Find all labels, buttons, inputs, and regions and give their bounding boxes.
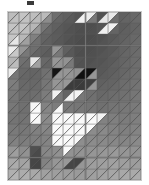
mosaic-cell-r1-c8	[97, 23, 108, 34]
mosaic-cell-r6-c9	[108, 79, 119, 90]
mosaic-cell-r3-c5	[63, 46, 74, 57]
mosaic-cell-r1-c4	[52, 23, 63, 34]
mosaic-cell-r14-c8	[97, 169, 108, 180]
mosaic-cell-r14-c1	[19, 169, 30, 180]
mosaic-cell-r3-c10	[119, 46, 130, 57]
mosaic-cell-r9-c2	[30, 113, 41, 124]
mosaic-cell-r4-c7	[86, 57, 97, 68]
mosaic-cell-r2-c11	[130, 34, 141, 45]
mosaic-cell-r0-c3	[41, 12, 52, 23]
mosaic-cell-r5-c1	[19, 68, 30, 79]
mosaic-cell-r2-c0	[8, 34, 19, 45]
mosaic-cell-r4-c4	[52, 57, 63, 68]
mosaic-cell-r9-c6	[74, 113, 85, 124]
mosaic-cell-r1-c0	[8, 23, 19, 34]
mosaic-cell-r1-c11	[130, 23, 141, 34]
mosaic-cell-r12-c7	[86, 146, 97, 157]
mosaic-cell-r6-c3	[41, 79, 52, 90]
mosaic-cell-r11-c8	[97, 135, 108, 146]
mosaic-cell-r9-c1	[19, 113, 30, 124]
mosaic-cell-r1-c7	[86, 23, 97, 34]
mosaic-cell-r6-c4	[52, 79, 63, 90]
mosaic-cell-r9-c9	[108, 113, 119, 124]
mosaic-cell-r13-c9	[108, 158, 119, 169]
triangulated-mosaic-grid	[7, 11, 142, 181]
mosaic-cell-r11-c10	[119, 135, 130, 146]
mosaic-cell-r5-c6	[74, 68, 85, 79]
mosaic-cell-r7-c10	[119, 90, 130, 101]
mosaic-cell-r13-c0	[8, 158, 19, 169]
mosaic-cell-r2-c10	[119, 34, 130, 45]
mosaic-cell-r0-c0	[8, 12, 19, 23]
mosaic-cell-r3-c1	[19, 46, 30, 57]
mosaic-cell-r11-c1	[19, 135, 30, 146]
mosaic-cell-r12-c10	[119, 146, 130, 157]
mosaic-cell-r3-c0	[8, 46, 19, 57]
mosaic-cell-r8-c11	[130, 102, 141, 113]
mosaic-cell-r11-c5	[63, 135, 74, 146]
mosaic-cell-r6-c8	[97, 79, 108, 90]
mosaic-cell-r1-c6	[74, 23, 85, 34]
mosaic-cell-r14-c11	[130, 169, 141, 180]
mosaic-cell-r6-c10	[119, 79, 130, 90]
mosaic-cell-r8-c6	[74, 102, 85, 113]
mosaic-cell-r8-c8	[97, 102, 108, 113]
mosaic-cell-r7-c2	[30, 90, 41, 101]
mosaic-cell-r2-c1	[19, 34, 30, 45]
mosaic-cell-r14-c2	[30, 169, 41, 180]
mosaic-cell-r10-c10	[119, 124, 130, 135]
mosaic-cell-r5-c2	[30, 68, 41, 79]
mosaic-cell-r13-c8	[97, 158, 108, 169]
mosaic-cell-r11-c11	[130, 135, 141, 146]
mosaic-cell-r7-c6	[74, 90, 85, 101]
mosaic-cell-r13-c3	[41, 158, 52, 169]
mosaic-cell-r5-c7	[86, 68, 97, 79]
mosaic-cell-r0-c4	[52, 12, 63, 23]
mosaic-cell-r9-c0	[8, 113, 19, 124]
mosaic-cell-r10-c11	[130, 124, 141, 135]
mosaic-cell-r10-c5	[63, 124, 74, 135]
mosaic-cell-r12-c0	[8, 146, 19, 157]
mosaic-cell-r7-c1	[19, 90, 30, 101]
mosaic-cell-r4-c2	[30, 57, 41, 68]
mosaic-cell-r2-c6	[74, 34, 85, 45]
mosaic-cell-r13-c6	[74, 158, 85, 169]
mosaic-cell-r5-c3	[41, 68, 52, 79]
mosaic-cell-r10-c1	[19, 124, 30, 135]
mosaic-cell-r5-c8	[97, 68, 108, 79]
mosaic-cell-r14-c5	[63, 169, 74, 180]
mosaic-cell-r0-c1	[19, 12, 30, 23]
mosaic-cell-r13-c4	[52, 158, 63, 169]
mosaic-cell-r9-c10	[119, 113, 130, 124]
mosaic-cell-r3-c7	[86, 46, 97, 57]
mosaic-cell-r10-c7	[86, 124, 97, 135]
mosaic-cell-r4-c9	[108, 57, 119, 68]
mosaic-cell-r11-c6	[74, 135, 85, 146]
mosaic-cell-r14-c7	[86, 169, 97, 180]
mosaic-canvas	[0, 0, 149, 185]
mosaic-cell-r14-c4	[52, 169, 63, 180]
mosaic-cell-r3-c11	[130, 46, 141, 57]
mosaic-cell-r9-c4	[52, 113, 63, 124]
mosaic-cell-r0-c8	[97, 12, 108, 23]
mosaic-cell-r2-c8	[97, 34, 108, 45]
mosaic-cell-r14-c10	[119, 169, 130, 180]
mosaic-cell-r10-c6	[74, 124, 85, 135]
mosaic-cell-r0-c7	[86, 12, 97, 23]
mosaic-cell-r6-c0	[8, 79, 19, 90]
mosaic-cell-r6-c1	[19, 79, 30, 90]
mosaic-cell-r5-c9	[108, 68, 119, 79]
mosaic-cell-r9-c5	[63, 113, 74, 124]
mosaic-cell-r4-c3	[41, 57, 52, 68]
mosaic-cell-r7-c7	[86, 90, 97, 101]
mosaic-cell-r4-c0	[8, 57, 19, 68]
mosaic-cell-r1-c10	[119, 23, 130, 34]
mosaic-cell-r11-c7	[86, 135, 97, 146]
mosaic-cell-r6-c5	[63, 79, 74, 90]
mosaic-cell-r12-c6	[74, 146, 85, 157]
mosaic-cell-r7-c9	[108, 90, 119, 101]
mosaic-cell-r13-c10	[119, 158, 130, 169]
mosaic-cell-r1-c2	[30, 23, 41, 34]
mosaic-cell-r1-c5	[63, 23, 74, 34]
mosaic-cell-r14-c3	[41, 169, 52, 180]
